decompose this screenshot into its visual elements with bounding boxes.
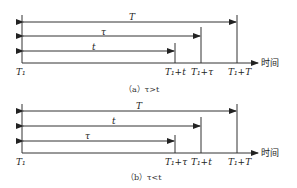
timing-diagram: T τ t T₁ T₁+t T₁+τ T₁+T 时间 （a）τ>t T t τ … bbox=[0, 0, 297, 188]
arrow-label-T: T bbox=[129, 12, 136, 22]
arrow-label-tau: τ bbox=[85, 131, 91, 141]
tick-label-t1-plus-T: T₁+T bbox=[228, 157, 252, 167]
time-axis-label: 时间 bbox=[261, 147, 279, 158]
arrow-label-t: t bbox=[92, 42, 96, 52]
caption-b: （b）τ<t bbox=[126, 173, 162, 182]
origin-label: T₁ bbox=[16, 67, 26, 77]
tick-label-t1-plus-T: T₁+T bbox=[228, 67, 252, 77]
tick-label-t1-plus-tau: T₁+τ bbox=[165, 157, 188, 167]
time-axis-label: 时间 bbox=[261, 57, 279, 68]
tick-label-t1-plus-t: T₁+t bbox=[191, 157, 212, 167]
panel-a bbox=[22, 15, 258, 63]
panel-b bbox=[22, 104, 258, 153]
tick-label-t1-plus-tau: T₁+τ bbox=[191, 67, 214, 77]
arrow-label-t: t bbox=[112, 116, 116, 126]
arrow-label-T: T bbox=[136, 101, 143, 111]
caption-a: （a）τ>t bbox=[124, 85, 160, 94]
tick-label-t1-plus-t: T₁+t bbox=[165, 67, 186, 77]
origin-label: T₁ bbox=[16, 157, 26, 167]
